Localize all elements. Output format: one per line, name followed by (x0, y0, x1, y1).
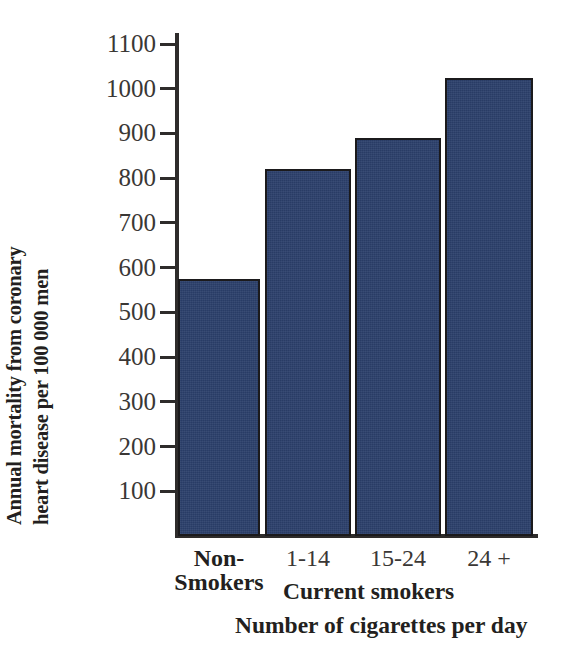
x-axis-title: Number of cigarettes per day (235, 612, 527, 639)
group-label-current-smokers: Current smokers (283, 578, 454, 605)
bar (178, 279, 260, 536)
x-axis-tick-label-line-2: Smokers (149, 570, 289, 594)
bar-chart: Annual mortality from coronary heart dis… (0, 0, 587, 657)
x-axis-tick-label: 24 + (419, 546, 559, 570)
bar (355, 138, 441, 536)
x-axis-tick-label-line-1: 1-14 (286, 545, 330, 571)
x-axis-tick-label-line-1: Non- (194, 545, 245, 571)
bar (265, 169, 351, 536)
x-axis-tick-label-line-1: 15-24 (370, 545, 426, 571)
bar (445, 78, 533, 536)
x-axis-tick-label-line-1: 24 + (467, 545, 511, 571)
